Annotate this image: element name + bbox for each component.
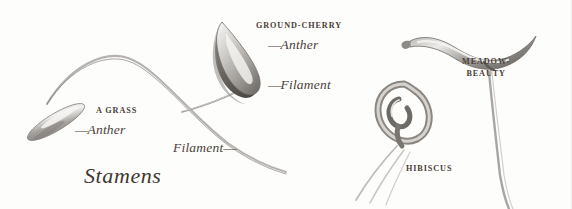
label-grass-species: A GRASS: [96, 106, 137, 116]
leader-dash-groundcherry-filament: —: [268, 77, 281, 92]
hibiscus-filament-3: [386, 152, 410, 205]
label-groundcherry-anther: —Anther: [268, 37, 318, 53]
label-grass-anther: —Anther: [75, 122, 125, 138]
label-meadowbeauty-species: MEADOW- BEAUTY: [462, 56, 510, 80]
label-hibiscus-species: HIBISCUS: [406, 164, 452, 174]
label-meadowbeauty-line2: BEAUTY: [462, 68, 510, 80]
specimen-hibiscus: [356, 84, 429, 205]
leader-dash-groundcherry-anther: —: [268, 37, 281, 52]
label-grass-filament: Filament—: [173, 140, 236, 156]
specimen-ground-cherry: [182, 22, 260, 112]
label-grass-filament-text: Filament: [173, 140, 223, 155]
label-meadowbeauty-line1: MEADOW-: [462, 56, 510, 68]
meadowbeauty-filament-shape: [489, 72, 509, 209]
leader-dash-grass-filament: —: [223, 140, 236, 155]
label-groundcherry-filament: —Filament: [268, 77, 331, 93]
botanical-plate: A GRASS —Anther Filament— GROUND-CHERRY …: [0, 0, 572, 209]
label-groundcherry-species: GROUND-CHERRY: [256, 21, 342, 31]
plate-title: Stamens: [84, 163, 162, 189]
label-groundcherry-filament-text: Filament: [281, 77, 331, 92]
label-groundcherry-anther-text: Anther: [281, 37, 319, 52]
label-grass-anther-text: Anther: [88, 122, 126, 137]
meadowbeauty-anther-tip: [401, 41, 410, 49]
leader-dash-grass-anther: —: [75, 122, 88, 137]
